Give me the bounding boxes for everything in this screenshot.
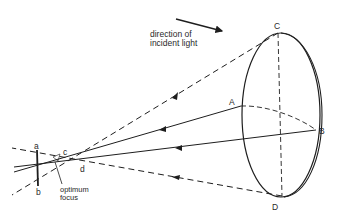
ray-d xyxy=(12,148,282,196)
image-plane xyxy=(37,150,38,186)
arc-ab xyxy=(241,106,316,130)
point-label-b: B xyxy=(319,126,325,136)
point-label-small-c: c xyxy=(63,147,68,157)
mirror-ellipse xyxy=(242,33,322,197)
ray-a xyxy=(14,106,241,172)
point-label-small-d: d xyxy=(80,164,85,174)
point-label-small-a: a xyxy=(34,141,39,151)
point-label-small-b: b xyxy=(36,187,41,197)
optics-diagram: direction of incident light C A B D a b … xyxy=(0,0,344,221)
point-label-a: A xyxy=(229,97,235,107)
point-label-c: C xyxy=(274,21,280,31)
direction-label-line2: incident light xyxy=(150,38,198,48)
ray-b xyxy=(14,130,316,167)
focus-label-line2: focus xyxy=(60,193,78,202)
ray-c xyxy=(12,33,278,195)
point-label-d: D xyxy=(272,202,278,212)
meridian-cd xyxy=(278,33,282,196)
